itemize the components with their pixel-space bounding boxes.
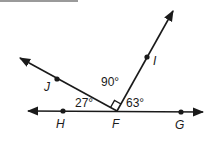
point-g: [178, 109, 183, 114]
point-j: [54, 76, 59, 81]
label-i: I: [153, 55, 156, 67]
point-i: [144, 54, 149, 59]
label-j: J: [44, 81, 50, 93]
label-h: H: [56, 118, 65, 130]
label-g: G: [175, 119, 184, 131]
line-hg: [28, 111, 203, 112]
point-h: [60, 108, 65, 113]
angle-ifg-label: 63°: [126, 97, 144, 109]
label-f: F: [112, 118, 119, 130]
angle-jfi-label: 90°: [101, 76, 119, 88]
angle-hfj-label: 27°: [75, 97, 93, 109]
